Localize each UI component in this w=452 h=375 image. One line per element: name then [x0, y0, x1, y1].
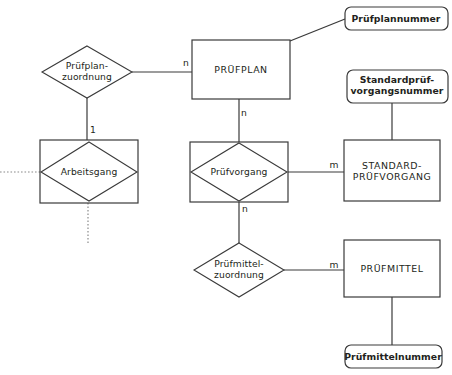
entity-shape-pruefmittel — [344, 240, 440, 297]
er-diagram: PRÜFPLAN STANDARD- PRÜFVORGANG PRÜFMITTE… — [0, 0, 452, 375]
relationship-shape-pruefmittelzuordnung — [194, 243, 284, 297]
weak-entities-layer — [40, 140, 288, 203]
edge-pruefplan-to-pruefplannummer — [290, 19, 345, 41]
attribute-shape-standardpruefvorgangsnummer — [347, 70, 448, 103]
er-diagram-canvas — [0, 0, 452, 375]
entity-shape-standard-pruefvorgang — [344, 140, 440, 201]
attribute-shape-pruefplannummer — [345, 7, 448, 30]
entity-shape-pruefplan — [192, 40, 290, 99]
attribute-shape-pruefmittelnummer — [345, 345, 442, 368]
relationship-shape-pruefplanzuordnung — [42, 46, 132, 98]
